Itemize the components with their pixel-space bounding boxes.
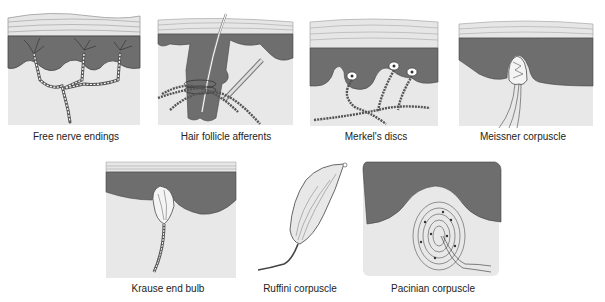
panel-free-nerve-endings: Free nerve endings xyxy=(0,0,150,150)
label-merkels-discs: Merkel's discs xyxy=(345,131,407,142)
panel-krause-end-bulb: Krause end bulb xyxy=(90,150,240,302)
panel-meissner-corpuscle: Meissner corpuscle xyxy=(455,0,605,150)
label-hair-follicle-afferents: Hair follicle afferents xyxy=(181,131,271,142)
panel-pacinian-corpuscle: Pacinian corpuscle xyxy=(355,150,515,302)
free-nerve-endings-illustration xyxy=(0,0,150,150)
pacinian-corpuscle-illustration xyxy=(355,150,515,302)
panel-merkels-discs: Merkel's discs xyxy=(300,0,450,150)
panel-ruffini-corpuscle: Ruffini corpuscle xyxy=(240,150,360,302)
label-pacinian-corpuscle: Pacinian corpuscle xyxy=(391,283,475,294)
label-free-nerve-endings: Free nerve endings xyxy=(33,131,119,142)
ruffini-corpuscle-illustration xyxy=(240,150,360,302)
label-meissner-corpuscle: Meissner corpuscle xyxy=(480,131,566,142)
meissner-corpuscle-illustration xyxy=(455,0,605,150)
label-ruffini-corpuscle: Ruffini corpuscle xyxy=(263,283,337,294)
label-krause-end-bulb: Krause end bulb xyxy=(132,283,205,294)
merkels-discs-illustration xyxy=(300,0,450,150)
krause-end-bulb-illustration xyxy=(90,150,240,302)
hair-follicle-afferents-illustration xyxy=(150,0,300,150)
panel-hair-follicle-afferents: Hair follicle afferents xyxy=(150,0,300,150)
